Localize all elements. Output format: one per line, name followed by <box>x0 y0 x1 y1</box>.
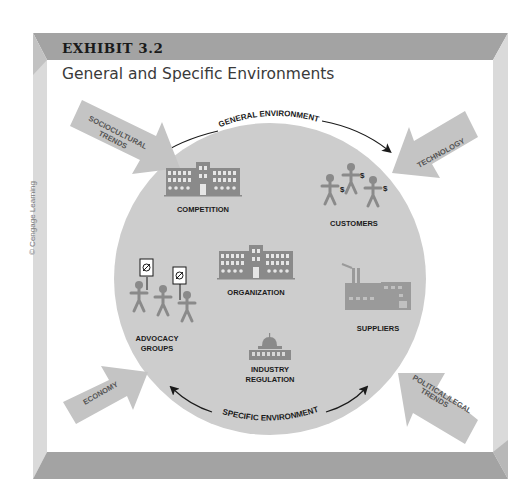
svg-text:ORGANIZATION: ORGANIZATION <box>227 288 284 297</box>
arrow-political-legal: POLITICAL/LEGAL TRENDS <box>398 373 478 444</box>
exhibit-figure: GENERAL ENVIRONMENT SPECIFIC ENVIRONMENT… <box>0 0 531 499</box>
svg-text:CUSTOMERS: CUSTOMERS <box>330 219 378 228</box>
exhibit-title: General and Specific Environments <box>62 65 334 83</box>
svg-text:SUPPLIERS: SUPPLIERS <box>357 324 400 333</box>
exhibit-label: EXHIBIT 3.2 <box>62 40 163 56</box>
arrow-sociocultural: SOCIOCULTURAL TRENDS <box>70 100 180 174</box>
copyright-credit: © Cengage Learning <box>28 181 37 255</box>
svg-text:INDUSTRY: INDUSTRY <box>251 365 289 374</box>
svg-text:ADVOCACY: ADVOCACY <box>136 334 179 343</box>
svg-text:$: $ <box>340 185 345 194</box>
arrow-economy: ECONOMY <box>63 366 148 424</box>
organization-node: ORGANIZATION <box>217 245 295 297</box>
svg-text:COMPETITION: COMPETITION <box>177 205 229 214</box>
arrow-technology: TECHNOLOGY <box>392 111 478 178</box>
svg-text:$: $ <box>383 184 388 193</box>
svg-text:REGULATION: REGULATION <box>245 375 294 384</box>
svg-text:$: $ <box>360 171 365 180</box>
svg-text:GROUPS: GROUPS <box>141 344 174 353</box>
